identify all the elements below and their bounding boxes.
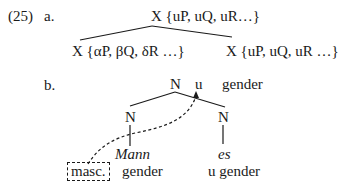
tree-b-root-u: u — [195, 77, 203, 92]
tree-b-right-node: N — [218, 110, 229, 125]
tree-b-right-feature: u gender — [208, 164, 260, 179]
tree-b-masc-box: masc. — [67, 162, 110, 181]
tree-b-left-feature: gender — [122, 164, 163, 179]
example-number: (25) — [8, 9, 33, 24]
tree-b-root-feature: gender — [222, 77, 263, 92]
subexample-b-label: b. — [44, 78, 55, 93]
subexample-a-label: a. — [44, 9, 54, 24]
tree-a-left-child: X {αP, βQ, δR …} — [72, 44, 185, 59]
tree-b-left-node: N — [125, 110, 136, 125]
tree-b-root-node: N — [170, 77, 181, 92]
tree-b-left-word: Mann — [115, 147, 150, 162]
tree-b-right-word: es — [218, 147, 231, 162]
tree-a-root: X {uP, uQ, uR…} — [151, 9, 260, 24]
tree-a-right-child: X {uP, uQ, uR …} — [226, 44, 339, 59]
